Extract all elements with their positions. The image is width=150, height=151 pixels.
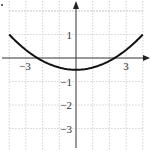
- stray-dot-marker: [1, 4, 3, 6]
- y-tick-label: −3: [60, 123, 72, 135]
- x-axis-arrow-icon: [143, 55, 150, 61]
- y-tick-label: −1: [60, 76, 72, 88]
- parabola-chart: −3 3 1 −1 −2 −3: [0, 0, 150, 151]
- y-tick-label: −2: [60, 99, 72, 111]
- y-axis-arrow-icon: [73, 1, 79, 9]
- tick-labels: −3 3 1 −1 −2 −3: [19, 29, 129, 135]
- x-tick-label: −3: [19, 60, 31, 72]
- axes: [2, 1, 150, 148]
- y-tick-label: 1: [67, 29, 73, 41]
- x-tick-label: 3: [123, 60, 129, 72]
